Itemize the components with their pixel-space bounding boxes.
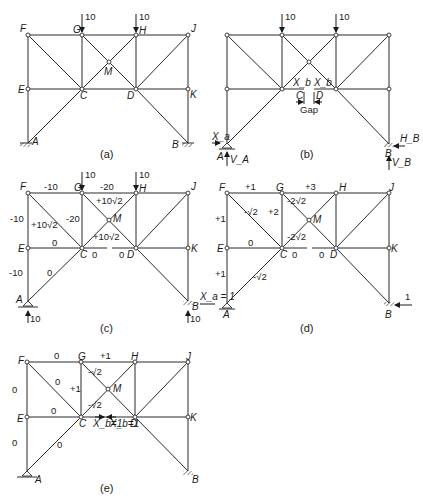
svg-text:A: A [216, 151, 224, 162]
svg-text:F: F [219, 182, 226, 193]
joints [25, 360, 190, 419]
svg-text:J: J [190, 181, 197, 192]
svg-text:F: F [20, 181, 27, 192]
svg-text:-√2: -√2 [88, 366, 102, 377]
joints [26, 33, 190, 91]
svg-text:0: 0 [47, 267, 52, 278]
svg-text:J: J [190, 23, 197, 34]
truss-members [28, 35, 188, 143]
svg-text:+10√2: +10√2 [31, 219, 58, 230]
svg-text:C: C [80, 249, 88, 260]
panel-c: 10 10 -10 -20 -10 +10√2 -20 +10√2 +10√2 … [9, 169, 235, 334]
svg-text:K: K [391, 243, 399, 254]
truss-members [227, 35, 389, 144]
svg-text:C: C [296, 90, 304, 101]
panel-d: +1 +3 +1 -√2 +2 -2√2 -2√2 0 0 0 +1 -√2 F… [215, 181, 412, 334]
caption-d: (d) [300, 322, 313, 334]
panel-e: 0 +1 0 0 +1 -√2 -√2 0 0 0 X_b=1 X_b=1 F … [12, 350, 199, 494]
caption-c: (c) [100, 322, 113, 334]
gap-detail: X_b X_b C D Gap [292, 77, 332, 115]
svg-text:H: H [139, 25, 147, 36]
svg-text:V_B: V_B [392, 157, 411, 168]
svg-text:+1: +1 [245, 181, 256, 192]
svg-text:D: D [316, 90, 323, 101]
svg-text:10: 10 [190, 313, 201, 324]
svg-text:0: 0 [12, 437, 17, 448]
svg-text:M: M [313, 214, 322, 225]
svg-text:K: K [190, 89, 198, 100]
svg-text:B: B [172, 139, 179, 150]
svg-text:10: 10 [30, 313, 41, 324]
svg-text:0: 0 [52, 237, 57, 248]
svg-text:+10√2: +10√2 [96, 195, 123, 206]
svg-text:M: M [104, 66, 113, 77]
svg-text:+10√2: +10√2 [93, 231, 120, 242]
svg-text:A: A [222, 309, 230, 320]
svg-text:0: 0 [57, 439, 62, 450]
svg-text:-10: -10 [9, 267, 23, 278]
svg-text:+2: +2 [268, 206, 279, 217]
svg-text:E: E [18, 243, 25, 254]
svg-text:M: M [113, 383, 122, 394]
svg-text:D: D [330, 249, 337, 260]
svg-text:10: 10 [139, 169, 150, 180]
xb-left-label: X_b [292, 77, 311, 88]
svg-text:A: A [34, 474, 42, 485]
svg-text:-10: -10 [44, 181, 58, 192]
joint-labels: F G H J M E C D K A B [217, 182, 399, 320]
svg-text:+1: +1 [215, 268, 226, 279]
svg-text:-√2: -√2 [244, 206, 258, 217]
svg-text:G: G [78, 351, 86, 362]
svg-text:D: D [127, 249, 134, 260]
svg-text:10: 10 [285, 11, 296, 22]
svg-text:-20: -20 [100, 181, 114, 192]
svg-text:E: E [18, 84, 25, 95]
panel-b: 10 10 X_b X_b C D Gap X_a A V_A H_B B [211, 11, 420, 170]
svg-text:C: C [79, 418, 87, 429]
svg-text:0: 0 [54, 350, 59, 361]
svg-text:-20: -20 [66, 213, 80, 224]
load-arrows: 10 10 [282, 11, 350, 32]
svg-text:J: J [388, 182, 395, 193]
svg-text:B: B [192, 301, 199, 312]
caption-e: (e) [100, 482, 113, 494]
svg-text:0: 0 [292, 249, 297, 260]
svg-text:10: 10 [85, 169, 96, 180]
caption-b: (b) [300, 148, 313, 160]
svg-text:+1: +1 [100, 350, 111, 361]
xa-label: X_a [211, 131, 230, 142]
svg-text:K: K [191, 243, 199, 254]
svg-text:V_A: V_A [230, 154, 249, 165]
svg-text:-√2: -√2 [253, 271, 267, 282]
svg-text:+1: +1 [70, 383, 81, 394]
svg-text:F: F [20, 23, 27, 34]
load-label-g: 10 [85, 11, 96, 22]
svg-text:-√2: -√2 [88, 399, 102, 410]
supports-loads: 1 [219, 291, 412, 309]
svg-text:H: H [339, 182, 347, 193]
svg-text:E: E [217, 243, 224, 254]
svg-text:H_B: H_B [400, 133, 420, 144]
load-label-h: 10 [139, 11, 150, 22]
svg-text:-2√2: -2√2 [287, 195, 306, 206]
svg-text:+3: +3 [305, 181, 316, 192]
member-forces: +1 +3 +1 -√2 +2 -2√2 -2√2 0 0 0 +1 -√2 [215, 181, 324, 282]
svg-text:J: J [185, 351, 192, 362]
unit-load-label: 1 [405, 291, 410, 302]
svg-text:E: E [17, 413, 24, 424]
svg-text:0: 0 [248, 237, 253, 248]
svg-text:-2√2: -2√2 [287, 231, 306, 242]
svg-text:F: F [18, 355, 25, 366]
svg-text:B: B [385, 309, 392, 320]
svg-text:+1: +1 [215, 213, 226, 224]
supports-reactions: 10 10 X_a = 1 [18, 291, 235, 324]
svg-text:0: 0 [319, 249, 324, 260]
svg-text:M: M [113, 213, 122, 224]
svg-text:D: D [130, 418, 137, 429]
svg-text:0: 0 [92, 249, 97, 260]
svg-text:H: H [139, 183, 147, 194]
caption-a: (a) [100, 148, 113, 160]
gap-label: Gap [300, 104, 318, 115]
svg-text:G: G [74, 182, 82, 193]
svg-text:0: 0 [55, 376, 60, 387]
